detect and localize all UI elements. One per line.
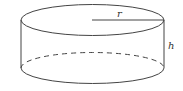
- radius-label: r: [117, 8, 123, 19]
- bottom-ellipse-hidden-back: [21, 53, 164, 68]
- bottom-ellipse-front: [21, 68, 164, 83]
- cylinder-svg: r h: [0, 0, 183, 91]
- height-label: h: [168, 40, 174, 51]
- cylinder-diagram: r h: [0, 0, 183, 91]
